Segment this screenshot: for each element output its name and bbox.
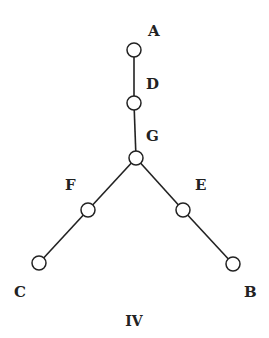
label-a: A bbox=[147, 22, 160, 40]
label-f: F bbox=[65, 176, 76, 194]
node-d bbox=[127, 96, 141, 110]
edge-f-c bbox=[39, 210, 88, 263]
edge-d-g bbox=[134, 103, 136, 158]
label-c: C bbox=[14, 283, 26, 301]
label-e: E bbox=[195, 176, 206, 194]
edge-g-f bbox=[88, 158, 136, 210]
edge-g-e bbox=[136, 158, 183, 210]
node-g bbox=[129, 151, 143, 165]
node-b bbox=[226, 257, 240, 271]
tree-diagram: ADGFECB IV bbox=[0, 0, 269, 338]
label-b: B bbox=[244, 283, 257, 301]
node-a bbox=[127, 43, 141, 57]
label-d: D bbox=[146, 75, 159, 93]
label-g: G bbox=[146, 127, 159, 145]
node-f bbox=[81, 203, 95, 217]
node-e bbox=[176, 203, 190, 217]
node-c bbox=[32, 256, 46, 270]
figure-caption: IV bbox=[125, 313, 144, 329]
edge-e-b bbox=[183, 210, 233, 264]
